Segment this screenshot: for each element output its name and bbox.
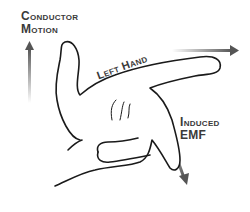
conductor-motion-line2: Motion xyxy=(21,23,78,36)
conductor-motion-arrow-icon xyxy=(25,41,34,103)
induced-emf-line2: EMF xyxy=(180,129,220,142)
conductor-motion-label: Conductor Motion xyxy=(21,10,78,36)
induced-emf-label: Induced EMF xyxy=(180,116,220,142)
field-arrow-icon xyxy=(172,45,239,56)
